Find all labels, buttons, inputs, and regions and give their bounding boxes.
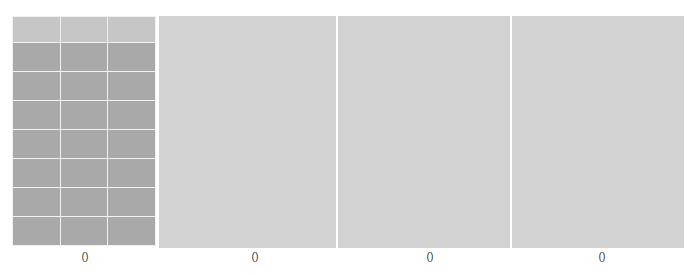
cell-score — [13, 159, 61, 188]
caption-d: () — [522, 250, 682, 262]
cell-frequency — [108, 217, 156, 246]
cell-frequency — [108, 130, 156, 159]
table-row — [13, 43, 156, 72]
table-row — [13, 217, 156, 246]
cell-score — [13, 43, 61, 72]
frequency-polygon-chart — [512, 16, 684, 248]
histogram-chart — [159, 16, 336, 248]
panel-d — [512, 16, 684, 248]
cell-tallies — [60, 101, 108, 130]
cell-frequency — [108, 159, 156, 188]
cell-tallies — [60, 188, 108, 217]
frequency-table — [12, 16, 156, 116]
cell-tallies — [60, 217, 108, 246]
cell-score — [13, 130, 61, 159]
header-frequency — [108, 17, 156, 43]
caption-a: () — [10, 250, 160, 262]
table-row — [13, 101, 156, 130]
histogram-to-polygon-chart — [338, 16, 510, 248]
cell-frequency — [108, 43, 156, 72]
cell-tallies — [60, 72, 108, 101]
caption-c: () — [350, 250, 510, 262]
cell-frequency — [108, 101, 156, 130]
header-score — [13, 17, 61, 43]
cell-score — [13, 72, 61, 101]
caption-b: () — [180, 250, 330, 262]
table-row — [13, 188, 156, 217]
panel-b — [159, 16, 336, 248]
cell-score — [13, 188, 61, 217]
table-row — [13, 72, 156, 101]
cell-frequency — [108, 72, 156, 101]
header-tallies — [60, 17, 108, 43]
cell-tallies — [60, 159, 108, 188]
cell-score — [13, 101, 61, 130]
cell-frequency — [108, 188, 156, 217]
panel-c — [338, 16, 510, 248]
table-row — [13, 130, 156, 159]
table-row — [13, 159, 156, 188]
cell-tallies — [60, 43, 108, 72]
cell-score — [13, 217, 61, 246]
cell-tallies — [60, 130, 108, 159]
